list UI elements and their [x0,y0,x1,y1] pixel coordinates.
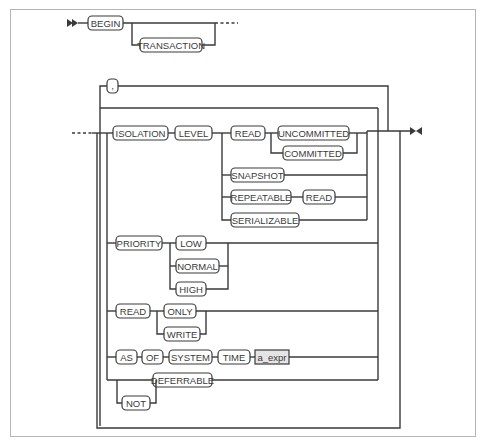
keyword-write: WRITE [164,327,200,341]
railroad-diagram: BEGIN TRANSACTION , I [0,0,485,441]
isolation-section: ISOLATION LEVEL READ UNCOMMITTED COMMITT… [113,126,367,227]
keyword-snapshot: SNAPSHOT [231,168,284,182]
svg-text:LEVEL: LEVEL [179,128,209,139]
keyword-repeatable-read: READ [303,190,335,204]
keyword-of: OF [142,350,163,364]
svg-text:SNAPSHOT: SNAPSHOT [231,170,283,181]
svg-text:PRIORITY: PRIORITY [117,238,163,249]
keyword-repeatable: REPEATABLE [231,190,292,204]
keyword-as: AS [116,350,137,364]
svg-text:DEFERRABLE: DEFERRABLE [151,375,214,386]
keyword-uncommitted: UNCOMMITTED [278,126,349,140]
svg-text:OF: OF [146,352,159,363]
priority-section: PRIORITY LOW NORMAL HIGH [107,236,378,296]
keyword-level: LEVEL [175,126,212,140]
svg-text:SERIALIZABLE: SERIALIZABLE [232,215,299,226]
end-marker-icon [410,127,422,135]
deferrable-section: DEFERRABLE NOT [107,373,378,410]
begin-section: BEGIN TRANSACTION [67,16,238,52]
svg-text:ONLY: ONLY [167,306,193,317]
nonterminal-a-expr: a_expr [255,350,289,364]
keyword-begin: BEGIN [88,16,123,30]
keyword-serializable: SERIALIZABLE [231,213,299,227]
svg-text:READ: READ [306,192,333,203]
svg-text:READ: READ [235,128,262,139]
svg-text:WRITE: WRITE [167,329,198,340]
svg-text:HIGH: HIGH [179,284,203,295]
keyword-transaction: TRANSACTION [137,38,205,52]
keyword-high: HIGH [176,282,206,296]
svg-text:LOW: LOW [180,238,202,249]
svg-text:NORMAL: NORMAL [177,261,218,272]
svg-text:SYSTEM: SYSTEM [171,352,210,363]
svg-text:NOT: NOT [126,398,146,409]
svg-text:AS: AS [120,352,133,363]
keyword-read: READ [231,126,265,140]
keyword-priority: PRIORITY [116,236,162,250]
as-of-section: AS OF SYSTEM TIME a_expr [107,350,378,364]
read-mode-section: READ ONLY WRITE [107,304,378,341]
svg-text:REPEATABLE: REPEATABLE [231,192,292,203]
svg-text:,: , [111,80,114,91]
keyword-deferrable: DEFERRABLE [151,373,214,387]
svg-text:ISOLATION: ISOLATION [116,128,166,139]
svg-text:UNCOMMITTED: UNCOMMITTED [278,128,349,139]
svg-text:TRANSACTION: TRANSACTION [137,40,205,51]
keyword-committed: COMMITTED [283,146,343,160]
keyword-isolation: ISOLATION [113,126,168,140]
keyword-read-mode: READ [116,304,150,318]
keyword-normal: NORMAL [176,259,219,273]
keyword-only: ONLY [164,304,196,318]
keyword-not: NOT [122,396,150,410]
svg-text:READ: READ [120,306,147,317]
svg-text:TIME: TIME [223,352,246,363]
keyword-time: TIME [218,350,250,364]
start-marker-icon [67,19,78,27]
separator-comma: , [107,79,118,93]
svg-text:BEGIN: BEGIN [91,18,121,29]
svg-text:a_expr: a_expr [257,352,286,363]
keyword-system: SYSTEM [169,350,212,364]
keyword-low: LOW [176,236,206,250]
svg-text:COMMITTED: COMMITTED [284,148,342,159]
